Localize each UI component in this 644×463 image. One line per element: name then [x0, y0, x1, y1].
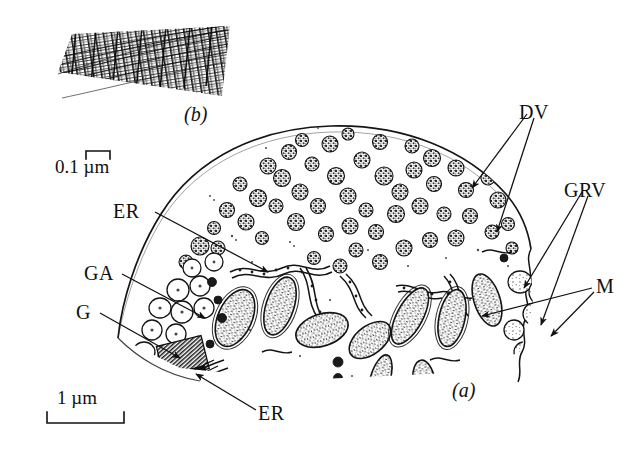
leader-dv-1 [472, 114, 527, 188]
label-er-upper: ER [113, 201, 140, 221]
label-er-lower: ER [258, 403, 285, 423]
label-g: G [76, 302, 91, 322]
golgi-stack [154, 335, 211, 387]
panel-a-caption: (a) [452, 380, 475, 400]
figure-root: 0.1 µm 1 µm (b) (a) DV GRV M ER GA G ER [0, 0, 644, 463]
leader-er-lower [196, 374, 256, 410]
label-m: M [596, 276, 614, 296]
granular-vesicle-group [504, 271, 561, 362]
label-ga: GA [84, 263, 114, 283]
panel-b-caption: (b) [184, 104, 207, 124]
panel-b-micrograph [50, 20, 240, 108]
leader-grv-1 [524, 192, 582, 288]
leader-dv-2 [497, 118, 534, 232]
scale-bar-lower [47, 412, 124, 423]
label-dv: DV [519, 102, 549, 122]
panel-a-cell [100, 114, 594, 410]
label-grv: GRV [564, 180, 606, 200]
leader-m-2 [551, 292, 594, 336]
scale-label-lower: 1 µm [57, 388, 97, 407]
scale-label-upper: 0.1 µm [55, 157, 109, 176]
